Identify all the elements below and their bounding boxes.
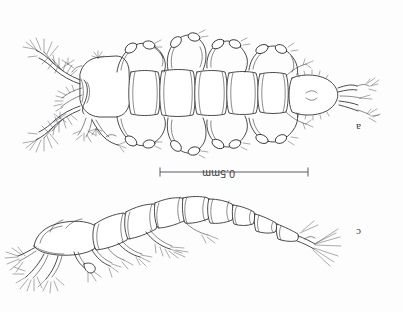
anal-somite [289,75,338,115]
legs-dorsal-upper [117,30,313,76]
lateral-caudal-rami [297,221,341,266]
terminal-setae [313,229,341,266]
figure-plate: 0.5mm a c [0,0,403,312]
panel-label-c: c [356,227,361,239]
panel-a-dorsal [23,30,380,158]
lateral-somite-1 [93,213,129,250]
lateral-somite-3 [154,198,185,228]
panel-c-lateral [5,197,341,294]
panel-label-a: a [356,122,361,134]
antennule-lower [23,106,80,152]
lateral-somite-4 [182,197,210,224]
scale-bar-label: 0.5mm [202,168,235,180]
caudal-rami-dorsal [338,78,380,122]
lateral-cephalothorax [34,221,97,255]
urosome-segment-4 [276,224,298,241]
somite-4 [227,72,259,115]
specimen-line-art [0,0,403,312]
urosome-segment-3 [254,214,276,233]
scale-bar-group: 0.5mm [160,164,308,186]
legs-dorsal-lower [117,112,313,158]
somite-5 [258,73,289,114]
antennule-upper [23,38,82,84]
